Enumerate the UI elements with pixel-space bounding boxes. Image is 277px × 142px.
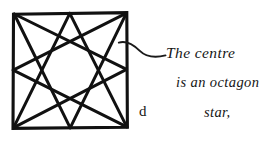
diagram-canvas: The centre is an octagon star, d (0, 0, 277, 142)
annotation-line-3: star, (204, 104, 231, 121)
square-border (13, 13, 127, 129)
annotation-line-2: is an octagon (176, 74, 259, 91)
star-polygon-group (13, 13, 127, 128)
square-border-group (13, 13, 127, 129)
octagon-star-figure (0, 0, 277, 142)
annotation-line-1: The centre (166, 44, 235, 62)
corner-label-d: d (139, 103, 147, 120)
